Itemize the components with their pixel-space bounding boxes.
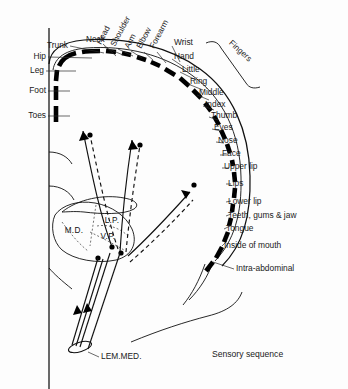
fiber-dashed	[130, 200, 193, 262]
lemniscus-fiber	[76, 259, 103, 346]
band-segment	[165, 69, 175, 75]
label-little: Little	[182, 64, 200, 74]
rotated-label-group: NeckHeadShoulderArmElbowForearmFingers	[86, 15, 254, 64]
label-arm: Arm	[123, 32, 138, 50]
nucleus-label-md: M.D.	[65, 226, 83, 235]
fiber-arrowhead	[128, 140, 138, 150]
temporal-lobe-contour	[131, 292, 242, 342]
brainstem-contour	[49, 268, 72, 289]
band-segment	[216, 247, 222, 258]
lemniscus-fiber	[88, 253, 120, 349]
label-intra-abdominal: Intra-abdominal	[236, 263, 294, 273]
label-forearm: Forearm	[148, 18, 171, 50]
fiber-origin-dot	[191, 182, 196, 187]
label-teeth-gums-jaw: Teeth, gums & jaw	[228, 210, 297, 220]
sensory-homunculus-diagram: TrunkHipLegFootToes NeckHeadShoulderArmE…	[0, 0, 348, 389]
label-fingers: Fingers	[227, 38, 253, 63]
nucleus-label-lp: L.P.	[105, 216, 120, 225]
sulcus-upper	[49, 152, 72, 164]
band-segment	[180, 78, 189, 86]
right-label-group: WristHandLittleRingMiddleIndexThumbEyesN…	[172, 37, 297, 273]
label-thumb: Thumb	[211, 110, 237, 120]
fiber-origin-dot	[137, 142, 142, 147]
label-ring: Ring	[190, 76, 208, 86]
label-upper-lip: Upper lip	[224, 161, 258, 171]
sulcus-lower	[49, 186, 74, 200]
nucleus-label-vp: V.P.	[101, 232, 116, 241]
label-hip: Hip	[33, 51, 46, 61]
cortical-sensory-band	[56, 51, 235, 271]
label-inside-of-mouth: Inside of mouth	[224, 240, 282, 250]
label-toes: Toes	[28, 110, 46, 120]
band-segment	[56, 70, 57, 81]
label-hand: Hand	[174, 51, 194, 61]
label-lower-lip: Lower lip	[228, 196, 262, 206]
label-index: Index	[205, 99, 226, 109]
figure-caption: Sensory sequence	[212, 349, 283, 359]
label-middle: Middle	[199, 87, 224, 97]
label-tongue: Tongue	[226, 223, 254, 233]
label-lips: Lips	[228, 178, 243, 188]
label-trunk: Trunk	[47, 40, 69, 50]
fiber-solid	[120, 140, 132, 252]
fiber-origin-dot	[109, 244, 114, 249]
tract-label: LEM.MED.	[101, 351, 142, 361]
leader-line	[213, 262, 234, 269]
label-leg: Leg	[30, 65, 44, 75]
fiber-arrowhead	[181, 190, 190, 199]
label-face: Face	[222, 148, 241, 158]
band-segment	[151, 62, 160, 66]
label-wrist: Wrist	[174, 37, 194, 47]
band-segment	[59, 53, 76, 66]
label-nose: Nose	[218, 135, 238, 145]
fiber-origin-dot	[87, 132, 92, 137]
band-segment	[206, 262, 213, 271]
nucleus-boundary-md-lp	[90, 205, 96, 246]
fiber-solid	[128, 192, 190, 256]
leader-line	[48, 57, 92, 58]
fiber-solid	[83, 131, 112, 247]
label-foot: Foot	[29, 85, 46, 95]
thalamocortical-fibers	[79, 131, 197, 262]
lemniscus-arrowhead	[73, 305, 82, 315]
fiber-arrowhead	[79, 131, 89, 141]
medial-lemniscus-group	[67, 253, 120, 357]
label-eyes: Eyes	[214, 122, 233, 132]
lemniscus-leader	[88, 352, 99, 357]
